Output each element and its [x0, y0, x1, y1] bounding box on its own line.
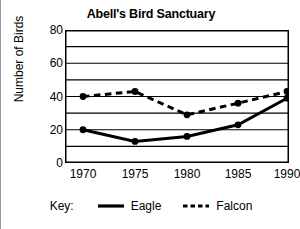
x-tick-label: 1970 [59, 168, 107, 181]
y-tick-label: 80 [29, 24, 63, 36]
legend-item-falcon: Falcon [183, 199, 252, 213]
chart-canvas [65, 30, 289, 163]
plot-area [65, 30, 289, 163]
x-tick-label: 1985 [214, 168, 262, 181]
x-tick-label: 1975 [111, 168, 159, 181]
chart-figure: Abell's Bird Sanctuary Number of Birds 8… [0, 0, 300, 229]
y-tick-label: 0 [29, 157, 63, 169]
dashed-line-swatch-icon [183, 201, 209, 211]
legend-label-falcon: Falcon [216, 199, 252, 213]
chart-legend: Key: Eagle Falcon [1, 196, 300, 216]
solid-line-swatch-icon [98, 201, 124, 211]
x-axis-tick-labels: 1970 1975 1980 1985 1990 [65, 168, 297, 184]
legend-item-eagle: Eagle [98, 199, 162, 213]
legend-key-label: Key: [50, 199, 74, 213]
y-tick-label: 60 [29, 57, 63, 69]
y-tick-label: 20 [29, 124, 63, 136]
x-tick-label: 1990 [263, 168, 300, 181]
chart-title: Abell's Bird Sanctuary [1, 7, 300, 21]
legend-label-eagle: Eagle [131, 199, 162, 213]
y-tick-label: 40 [29, 91, 63, 103]
y-axis-tick-labels: 80 60 40 20 0 [23, 30, 63, 163]
x-tick-label: 1980 [163, 168, 211, 181]
